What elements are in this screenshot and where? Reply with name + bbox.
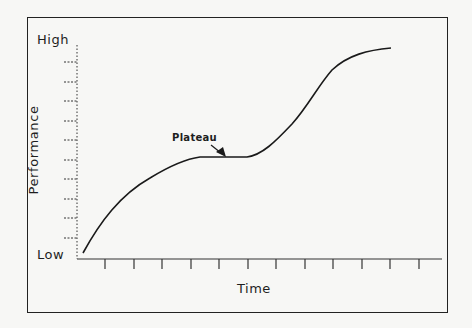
performance-curve-plot — [0, 0, 472, 328]
plateau-annotation: Plateau — [172, 132, 217, 143]
x-axis-title: Time — [237, 281, 271, 296]
y-axis-title: Performance — [26, 100, 41, 200]
plateau-arrow-icon — [216, 147, 226, 157]
performance-curve — [83, 48, 391, 253]
y-axis-ticks — [64, 62, 77, 238]
y-high-label: High — [37, 32, 69, 47]
x-axis-ticks — [105, 259, 419, 269]
y-low-label: Low — [37, 247, 64, 262]
